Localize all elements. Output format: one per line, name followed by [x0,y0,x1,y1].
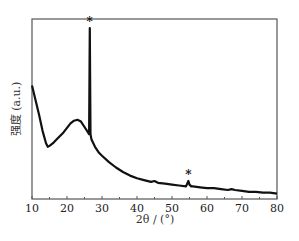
xrd-chart: 1020304050607080 ** 2θ / (°) 强度 (a.u.) [0,0,299,241]
plot-frame [32,19,277,199]
y-axis-label: 强度 (a.u.) [9,82,23,137]
x-tick-label: 20 [60,202,74,215]
x-tick-label: 10 [25,202,39,215]
peak-marker: * [87,15,94,29]
peak-marker: * [185,168,192,182]
x-axis-label: 2θ / (°) [136,213,174,226]
x-tick-label: 30 [95,202,109,215]
xrd-curve [32,28,277,194]
x-tick-label: 70 [235,202,249,215]
x-tick-label: 80 [270,202,284,215]
x-tick-label: 60 [200,202,214,215]
